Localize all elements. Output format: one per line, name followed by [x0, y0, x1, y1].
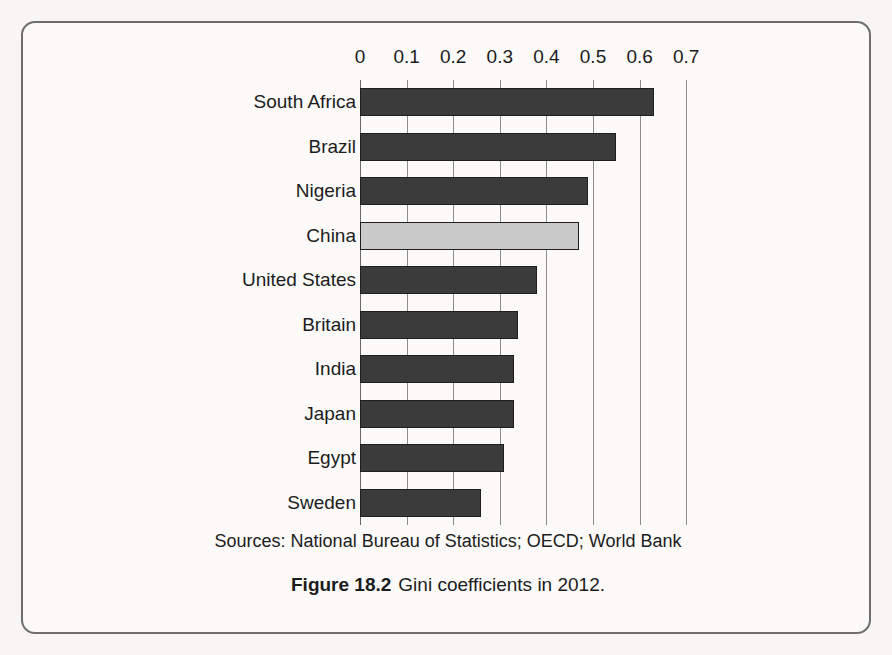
bar-row: Sweden	[23, 481, 873, 526]
category-label: Brazil	[308, 125, 356, 170]
figure-caption-label: Figure 18.2	[291, 574, 391, 595]
x-axis-tick-label: 0	[355, 44, 366, 70]
bar	[360, 177, 588, 205]
x-axis-tick-label: 0.5	[580, 44, 606, 70]
bar	[360, 444, 504, 472]
x-axis-tick-label: 0.3	[487, 44, 513, 70]
bar	[360, 88, 654, 116]
bar	[360, 222, 579, 250]
x-axis-tick-label: 0.2	[440, 44, 466, 70]
bar	[360, 400, 514, 428]
bar	[360, 311, 518, 339]
bar	[360, 266, 537, 294]
bar-row: China	[23, 214, 873, 259]
category-label: South Africa	[254, 80, 356, 125]
category-label: United States	[242, 258, 356, 303]
category-label: Sweden	[287, 481, 356, 526]
category-label: China	[306, 214, 356, 259]
figure-card: 00.10.20.30.40.50.60.7 South AfricaBrazi…	[21, 21, 871, 634]
category-label: Egypt	[307, 436, 356, 481]
category-label: India	[315, 347, 356, 392]
category-label: Britain	[302, 303, 356, 348]
bar	[360, 489, 481, 517]
bar-row: Britain	[23, 303, 873, 348]
figure-caption-text: Gini coefficients in 2012.	[398, 574, 605, 595]
x-axis-tick-label: 0.1	[393, 44, 419, 70]
x-axis-tick-label: 0.7	[673, 44, 699, 70]
bar-rows: South AfricaBrazilNigeriaChinaUnited Sta…	[23, 80, 873, 525]
x-axis-tick-label: 0.6	[626, 44, 652, 70]
bar-row: South Africa	[23, 80, 873, 125]
bar-row: Brazil	[23, 125, 873, 170]
x-axis-tick-labels: 00.10.20.30.40.50.60.7	[23, 44, 873, 70]
bar-row: India	[23, 347, 873, 392]
category-label: Nigeria	[296, 169, 356, 214]
category-label: Japan	[304, 392, 356, 437]
x-axis-tick-label: 0.4	[533, 44, 559, 70]
bar-row: Egypt	[23, 436, 873, 481]
bar-row: United States	[23, 258, 873, 303]
bar-row: Japan	[23, 392, 873, 437]
bar	[360, 133, 616, 161]
chart-source-note: Sources: National Bureau of Statistics; …	[23, 531, 873, 552]
bar-row: Nigeria	[23, 169, 873, 214]
bar	[360, 355, 514, 383]
figure-caption: Figure 18.2Gini coefficients in 2012.	[23, 574, 873, 596]
